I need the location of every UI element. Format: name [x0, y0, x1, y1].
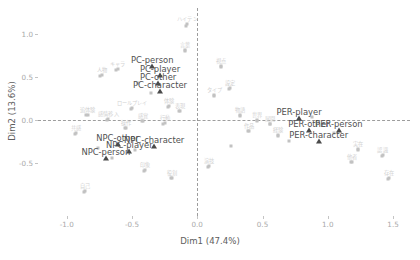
cloud-point-label: 行動 [160, 114, 170, 121]
cloud-point-label: 表現 [175, 101, 185, 108]
cloud-point-label: ハイテン [177, 14, 197, 21]
cloud-point [83, 190, 86, 193]
cloud-point-label: キャラ [110, 60, 125, 67]
cloud-point [186, 22, 189, 25]
cloud-point [130, 107, 133, 110]
cloud-point [184, 49, 187, 52]
cloud-point [247, 129, 250, 132]
cloud-point-label: 存在 [384, 169, 394, 176]
x-tick-mark [132, 216, 133, 219]
x-tick-mark [328, 216, 329, 219]
cloud-point-label: 体験 [164, 97, 174, 104]
cloud-point [116, 68, 119, 71]
cloud-point-label: タイプ [207, 86, 222, 93]
cloud-point [125, 127, 128, 130]
x-tick-mark [197, 216, 198, 219]
y-tick-label: -0.5 [19, 158, 33, 167]
cloud-point-label: 共感 [71, 124, 81, 131]
y-tick-mark [35, 34, 38, 35]
cloud-point [179, 109, 182, 112]
cloud-point [230, 144, 233, 147]
cloud-point [163, 122, 166, 125]
cloud-point-label: 認識 [377, 146, 387, 153]
cloud-point [277, 134, 280, 137]
x-tick-label: 1.5 [387, 220, 398, 229]
y-tick-mark [35, 163, 38, 164]
cloud-point-label: 追体験 [80, 105, 95, 112]
cloud-point-label: 人物 [97, 66, 107, 73]
cloud-point [239, 114, 242, 117]
cloud-point-label: 操作 [121, 119, 131, 126]
cloud-point [144, 169, 147, 172]
cloud-point [100, 74, 103, 77]
group-marker-npc-person [103, 156, 109, 161]
x-axis-label: Dim1 (47.4%) [0, 236, 420, 246]
x-tick-label: 1.0 [322, 220, 333, 229]
cloud-point [168, 105, 171, 108]
cloud-point [86, 113, 89, 116]
group-marker-per-character [316, 138, 322, 143]
cloud-point [256, 119, 259, 122]
cloud-point [185, 25, 188, 28]
cloud-point [228, 86, 231, 89]
plot-panel: ハイテン言葉キャラ人物視点設定タイプ体験ロールプレイ表現追体験感情移入感覚行動操… [38, 8, 410, 216]
cloud-point-label: 役割 [167, 168, 177, 175]
cloud-point [269, 123, 272, 126]
cloud-point-label: 印象 [140, 161, 150, 168]
cloud-point [287, 140, 290, 143]
cloud-point [107, 118, 110, 121]
reference-line-vertical [197, 8, 198, 216]
cloud-point [213, 94, 216, 97]
cloud-point-label: 言葉 [180, 41, 190, 48]
cloud-point-label: 演技 [204, 157, 214, 164]
cloud-point [357, 148, 360, 151]
y-tick-label: 0.0 [22, 115, 33, 124]
cloud-point-label: 物語 [235, 106, 245, 113]
y-tick-mark [35, 120, 38, 121]
x-tick-label: 0.0 [192, 220, 203, 229]
cloud-point-label: 設定 [225, 78, 235, 85]
cloud-point-label: ロールプレイ [117, 99, 148, 106]
cloud-point [171, 176, 174, 179]
x-tick-label: -0.5 [125, 220, 139, 229]
cloud-point [149, 92, 152, 95]
cloud-point [74, 132, 77, 135]
cloud-point-label: 経験 [273, 126, 283, 133]
cloud-point [142, 120, 145, 123]
cloud-point [350, 160, 353, 163]
cloud-point [381, 154, 384, 157]
y-tick-label: 0.5 [22, 72, 33, 81]
cloud-point-label: 視点 [216, 57, 226, 64]
x-tick-mark [263, 216, 264, 219]
cloud-point [388, 177, 391, 180]
cloud-point-label: 実在 [353, 140, 363, 147]
x-tick-label: 0.5 [257, 220, 268, 229]
cloud-point-label: 感情移入 [98, 110, 118, 117]
x-tick-label: -1.0 [60, 220, 74, 229]
cloud-point-label: 自己 [80, 182, 90, 189]
cloud-point [220, 65, 223, 68]
x-tick-mark [393, 216, 394, 219]
cloud-point-label: 他者 [347, 152, 357, 159]
x-tick-mark [67, 216, 68, 219]
y-tick-label: 1.0 [22, 29, 33, 38]
y-tick-mark [35, 77, 38, 78]
cloud-point [207, 165, 210, 168]
cloud-point-label: 世界 [252, 111, 262, 118]
factor-map-chart: ハイテン言葉キャラ人物視点設定タイプ体験ロールプレイ表現追体験感情移入感覚行動操… [0, 0, 420, 260]
group-marker-pc-character [157, 89, 163, 94]
cloud-point-label: 展開 [265, 115, 275, 122]
cloud-point-label: 感覚 [138, 112, 148, 119]
cloud-point-label: 作品 [244, 121, 254, 128]
y-axis-label: Dim2 (13.6%) [7, 71, 17, 151]
